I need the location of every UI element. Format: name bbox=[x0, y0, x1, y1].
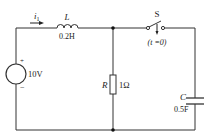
resistor-body bbox=[110, 75, 116, 94]
capacitor-name: C bbox=[180, 92, 187, 102]
switch-name: S bbox=[154, 9, 159, 19]
resistor-name: R bbox=[101, 80, 108, 90]
current-label: i1 bbox=[34, 11, 40, 22]
source-plus: + bbox=[20, 57, 24, 65]
source-minus: − bbox=[20, 83, 25, 92]
inductor-value: 0.2H bbox=[59, 32, 75, 41]
source-value: 10V bbox=[28, 69, 44, 79]
switch-blade bbox=[149, 21, 161, 27]
switch-arrow-icon bbox=[156, 31, 159, 35]
inductor-name: L bbox=[63, 12, 69, 22]
current-arrow-icon bbox=[39, 21, 44, 25]
resistor-value: 1Ω bbox=[119, 80, 130, 90]
inductor-coil bbox=[57, 25, 78, 29]
capacitor-value: 0.5F bbox=[174, 105, 189, 114]
junction-dot-bottom bbox=[111, 128, 115, 132]
voltage-source-icon bbox=[6, 64, 26, 84]
switch-timing: (t =0) bbox=[148, 38, 167, 47]
circuit-diagram: i1 L 0.2H S (t =0) + − 10V R 1Ω C 0.5F bbox=[0, 0, 211, 138]
switch-terminal-right bbox=[161, 26, 164, 29]
junction-dot-top bbox=[111, 26, 115, 30]
